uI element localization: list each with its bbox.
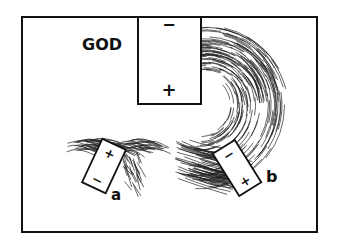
battery-a-label: a <box>111 186 121 204</box>
main-battery-negative: − <box>162 15 175 34</box>
battery-b-label: b <box>266 167 277 186</box>
main-battery-positive: + <box>161 79 176 100</box>
god-label: GOD <box>82 35 122 54</box>
illustration: − + GOD + − a − + b <box>0 0 337 249</box>
main-battery: − + <box>138 15 201 104</box>
